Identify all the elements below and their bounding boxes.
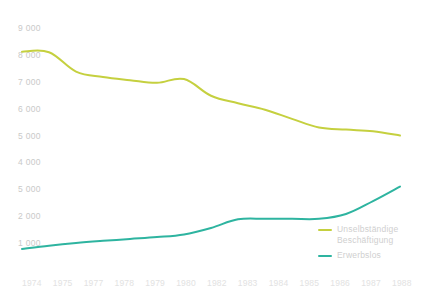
chart-container: 9 0008 0007 0006 0005 0004 0005 0002 000… bbox=[0, 0, 425, 300]
x-tick-label: 1983 bbox=[238, 278, 258, 288]
x-tick-label: 1987 bbox=[361, 278, 381, 288]
x-tick-label: 1977 bbox=[84, 278, 104, 288]
series-line-unselbstandige-beschaeftigung bbox=[22, 50, 400, 135]
legend-item[interactable]: UnselbständigeBeschäftigung bbox=[318, 224, 423, 245]
x-tick-label: 1984 bbox=[269, 278, 289, 288]
x-tick-label: 1974 bbox=[22, 278, 42, 288]
legend-item-label: UnselbständigeBeschäftigung bbox=[337, 224, 398, 245]
legend-label-line1: Unselbständige bbox=[337, 224, 398, 234]
legend-item[interactable]: Erwerbslos bbox=[318, 250, 423, 261]
x-tick-label: 1988 bbox=[392, 278, 412, 288]
legend-item-label: Erwerbslos bbox=[337, 250, 381, 261]
legend-label-line1: Erwerbslos bbox=[337, 250, 381, 260]
x-tick-label: 1980 bbox=[176, 278, 196, 288]
legend-line-swatch-icon bbox=[318, 255, 332, 257]
legend-line-swatch-icon bbox=[318, 229, 332, 231]
x-tick-label: 1986 bbox=[330, 278, 350, 288]
x-tick-label: 1985 bbox=[300, 278, 320, 288]
x-tick-label: 1978 bbox=[115, 278, 135, 288]
x-tick-label: 1982 bbox=[207, 278, 227, 288]
x-tick-label: 1975 bbox=[53, 278, 73, 288]
x-tick-label: 1979 bbox=[145, 278, 165, 288]
chart-legend: UnselbständigeBeschäftigungErwerbslos bbox=[318, 224, 423, 266]
legend-label-line2: Beschäftigung bbox=[337, 235, 393, 245]
